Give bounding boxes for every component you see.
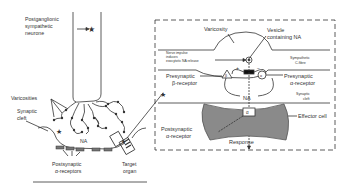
neurone-label-3: neurone: [25, 30, 44, 36]
vesicle-label-1: Vesicle: [267, 27, 284, 33]
target-organ-label-1: Target: [122, 161, 137, 167]
neurone-axon: [73, 12, 101, 102]
synaptic-cleft-label-2: cleft: [17, 115, 27, 121]
plus-sign: +: [236, 65, 239, 71]
varicosities-label: Varicosities: [11, 95, 38, 101]
left-panel: [26, 12, 163, 182]
na-label: NA: [80, 138, 88, 144]
presynaptic-beta-label-1: Presynaptic: [166, 73, 195, 79]
postsynaptic-receptors-label-1: Postsynaptic: [52, 161, 82, 167]
inset-synaptic-cleft-label-1: Synaptic: [296, 92, 310, 96]
star-icon: ★: [88, 25, 95, 34]
star-icon: ★: [121, 139, 126, 145]
inset-connector: [127, 93, 163, 138]
presynaptic-beta-label-2: β-receptor: [172, 80, 197, 86]
sympathetic-fibre-label-2: C-fibre: [295, 61, 306, 65]
postsynaptic-receptors-label-2: α-receptors: [55, 168, 82, 174]
presynaptic-alpha-label-2: α-receptor: [290, 80, 315, 86]
varicosity-membrane: [158, 32, 330, 50]
star-icon: ★: [160, 91, 166, 98]
postsynaptic-alpha-box: [243, 108, 255, 116]
target-organ-label-2: organ: [123, 168, 136, 174]
inset-synaptic-cleft-label-2: cleft: [303, 97, 310, 101]
postsynaptic-alpha-label-1: Postsynaptic: [161, 126, 192, 132]
sympathetic-fibre-label-1: Sympathetic: [290, 56, 310, 60]
neurone-label-2: sympathetic: [25, 23, 53, 29]
alpha-box-label: α: [246, 110, 249, 115]
star-icon: ★: [56, 128, 62, 135]
alpha-glyph: α: [260, 74, 262, 78]
minus-sign: −: [257, 65, 260, 71]
sympathetic-transmission-diagram: ★ ★ ★ ★ Postganglionic sympathetic neuro…: [0, 0, 347, 192]
neurone-label-1: Postganglionic: [25, 16, 59, 22]
nerve-impulse-label-3: exocytotic NA release: [166, 59, 199, 63]
response-label: Response: [229, 139, 254, 145]
varicosity-label: Varicosity: [204, 26, 228, 32]
beta-glyph: β: [225, 74, 227, 78]
postsynaptic-alpha-label-2: α-receptor: [166, 133, 191, 139]
presynaptic-alpha-label-1: Presynaptic: [284, 73, 313, 79]
inset-na-label: NA: [243, 95, 251, 101]
vesicle-label-2: containing NA: [267, 34, 302, 40]
synaptic-cleft-label-1: Synaptic: [17, 108, 37, 114]
effector-cell-label: Effector cell: [298, 113, 327, 119]
